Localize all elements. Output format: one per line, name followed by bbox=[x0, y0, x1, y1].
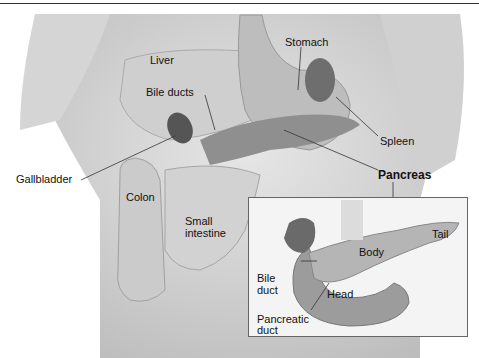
label-stomach: Stomach bbox=[285, 36, 328, 48]
label-colon: Colon bbox=[126, 191, 155, 203]
pancreas-detail-inset: Body Tail Bile duct Head Pancreatic duct bbox=[248, 197, 468, 337]
label-liver: Liver bbox=[150, 54, 174, 66]
inset-label-pancreatic-duct-line2: duct bbox=[257, 324, 278, 336]
label-bile-ducts: Bile ducts bbox=[146, 86, 194, 98]
label-gallbladder: Gallbladder bbox=[16, 173, 72, 185]
label-small-intestine-line1: Small bbox=[185, 215, 213, 227]
label-small-intestine-line2: intestine bbox=[185, 227, 226, 239]
inset-label-body: Body bbox=[359, 246, 384, 258]
inset-label-bile-duct-line1: Bile bbox=[257, 272, 275, 284]
label-pancreas: Pancreas bbox=[378, 169, 431, 181]
inset-label-bile-duct-line2: duct bbox=[257, 284, 278, 296]
label-spleen: Spleen bbox=[380, 135, 414, 147]
inset-label-head: Head bbox=[327, 288, 353, 300]
inset-label-tail: Tail bbox=[432, 228, 449, 240]
